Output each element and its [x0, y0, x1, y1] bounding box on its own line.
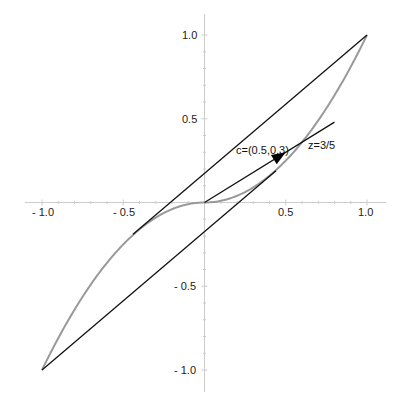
upper-tangent-line: [133, 35, 367, 234]
y-tick-label: 1.0: [182, 29, 197, 41]
chart-canvas: - 1.0 - 0.5 0.5 1.0 1.0 0.5 - 0.5 - 1.0 …: [0, 0, 403, 406]
x-tick-label: - 0.5: [113, 206, 135, 218]
y-tick-label: - 1.0: [174, 364, 196, 376]
x-tick-label: - 1.0: [32, 206, 54, 218]
x-tick-label: 1.0: [358, 206, 373, 218]
ray-line: [205, 122, 335, 202]
z-label: z=3/5: [308, 139, 335, 151]
c-label: c=(0.5,0.3): [236, 144, 289, 156]
y-tick-label: 0.5: [182, 113, 197, 125]
y-tick-label: - 0.5: [174, 280, 196, 292]
x-tick-label: 0.5: [278, 206, 293, 218]
lower-tangent-line: [42, 171, 276, 370]
